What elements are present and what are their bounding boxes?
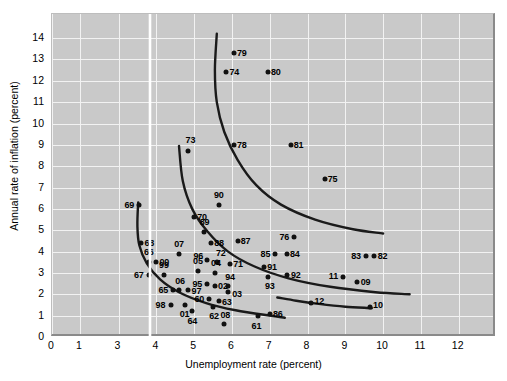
data-point-75: [322, 177, 327, 182]
data-point-73: [186, 149, 191, 154]
data-point-78: [231, 142, 236, 147]
data-point-76: [292, 234, 297, 239]
data-point-label-04: 04: [211, 258, 221, 267]
y-tick-0: 0: [38, 331, 44, 341]
data-point-label-09: 09: [361, 277, 371, 286]
data-point-89: [201, 230, 206, 235]
data-point-label-83: 83: [351, 251, 361, 260]
data-point-label-03: 03: [232, 290, 242, 299]
data-point-label-94: 94: [225, 272, 235, 281]
x-tick-8: 8: [304, 340, 310, 351]
x-tick-6: 6: [228, 340, 234, 351]
data-point-label-67: 67: [134, 271, 144, 280]
data-point-88: [209, 241, 214, 246]
data-point-90: [216, 202, 221, 207]
data-point-label-81: 81: [294, 140, 304, 149]
x-tick-9: 9: [341, 340, 347, 351]
data-point-96: [205, 258, 210, 263]
x-tick-11: 11: [414, 340, 425, 351]
data-point-99: [161, 273, 166, 278]
data-point-64: [190, 309, 195, 314]
data-point-86: [267, 311, 272, 316]
data-point-06: [177, 288, 182, 293]
phillips-curve-chart: 01234567891011121314 Annual rate of infl…: [0, 0, 507, 381]
data-point-label-82: 82: [378, 251, 388, 260]
data-point-66: [146, 260, 151, 265]
data-point-label-78: 78: [237, 140, 247, 149]
y-axis-tick-labels: 01234567891011121314: [0, 0, 44, 381]
data-point-label-71: 71: [233, 260, 243, 269]
data-point-03: [226, 290, 231, 295]
data-point-label-61: 61: [252, 321, 262, 330]
data-point-87: [235, 238, 240, 243]
data-point-04: [212, 270, 217, 275]
x-tick-7: 7: [266, 340, 272, 351]
data-point-74: [224, 70, 229, 75]
data-point-12: [309, 300, 314, 305]
x-tick-0: 0: [48, 340, 54, 351]
data-point-label-93: 93: [265, 282, 275, 291]
data-point-08: [222, 322, 227, 327]
data-point-label-89: 89: [200, 218, 210, 227]
data-point-01: [182, 303, 187, 308]
y-tick-2: 2: [38, 288, 44, 298]
data-point-label-66: 66: [144, 248, 154, 257]
data-point-label-75: 75: [328, 175, 338, 184]
data-point-label-88: 88: [214, 239, 224, 248]
data-point-label-11: 11: [329, 272, 338, 281]
data-point-61: [256, 313, 261, 318]
data-point-label-79: 79: [237, 49, 247, 58]
data-point-92: [284, 273, 289, 278]
data-point-label-98: 98: [156, 301, 166, 310]
phillips-curve-2010s: [277, 298, 372, 309]
x-tick-1: 1: [76, 340, 82, 351]
data-point-95: [205, 281, 210, 286]
data-point-label-90: 90: [214, 190, 224, 199]
data-point-80: [265, 70, 270, 75]
data-point-85: [273, 251, 278, 256]
y-axis-title: Annual rate of inflation (percent): [8, 46, 20, 266]
data-point-label-60: 60: [194, 294, 204, 303]
data-point-62: [211, 305, 216, 310]
data-point-79: [231, 51, 236, 56]
data-point-69: [137, 202, 142, 207]
data-point-97: [186, 288, 191, 293]
y-tick-3: 3: [38, 267, 44, 277]
x-axis-title: Unemployment rate (percent): [0, 358, 507, 370]
data-point-70: [192, 215, 197, 220]
data-point-label-87: 87: [241, 236, 251, 245]
y-tick-5: 5: [38, 224, 44, 234]
data-point-label-10: 10: [373, 301, 383, 310]
data-point-65: [171, 288, 176, 293]
data-point-label-06: 06: [175, 277, 185, 286]
data-point-10: [367, 305, 372, 310]
data-point-67: [146, 273, 151, 278]
data-point-label-80: 80: [271, 68, 281, 77]
data-point-09: [354, 279, 359, 284]
data-point-label-86: 86: [273, 309, 283, 318]
data-point-81: [288, 142, 293, 147]
data-point-98: [169, 303, 174, 308]
data-point-82: [371, 253, 376, 258]
data-point-label-63: 63: [222, 297, 232, 306]
data-point-93: [265, 275, 270, 280]
data-point-84: [284, 251, 289, 256]
data-point-label-62: 62: [209, 312, 219, 321]
y-tick-6: 6: [38, 203, 44, 213]
y-tick-10: 10: [32, 118, 44, 128]
y-tick-9: 9: [38, 139, 44, 149]
y-tick-4: 4: [38, 246, 44, 256]
data-point-60: [207, 296, 212, 301]
data-point-label-12: 12: [314, 296, 324, 305]
data-point-label-84: 84: [290, 249, 300, 258]
y-tick-13: 13: [32, 53, 44, 63]
data-point-label-92: 92: [291, 271, 301, 280]
data-point-94: [226, 283, 231, 288]
data-point-05: [195, 268, 200, 273]
y-tick-1: 1: [38, 310, 44, 320]
y-tick-12: 12: [32, 75, 44, 85]
x-tick-3: 3: [115, 340, 121, 351]
data-point-label-69: 69: [124, 200, 134, 209]
data-point-label-74: 74: [229, 68, 239, 77]
y-tick-11: 11: [33, 96, 44, 106]
